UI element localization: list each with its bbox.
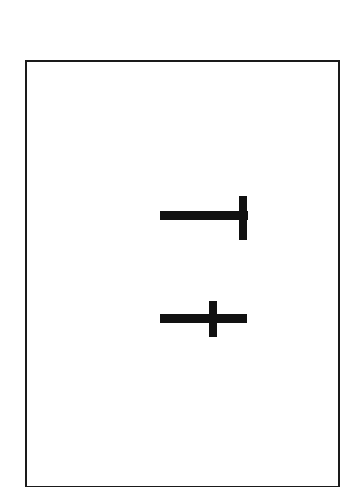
- plus-shape-label: Long horizontal bar crossed near its rig…: [27, 62, 28, 63]
- plus-cross-shape: Long horizontal bar crossed near its rig…: [27, 62, 338, 486]
- figure-caption: [0, 0, 1, 1]
- figure-border: Horizontal bar meeting the top-to-bottom…: [25, 60, 340, 487]
- plus-vertical-bar: [209, 301, 217, 337]
- scanned-page: Horizontal bar meeting the top-to-bottom…: [0, 0, 351, 487]
- plus-horizontal-bar: [160, 314, 247, 323]
